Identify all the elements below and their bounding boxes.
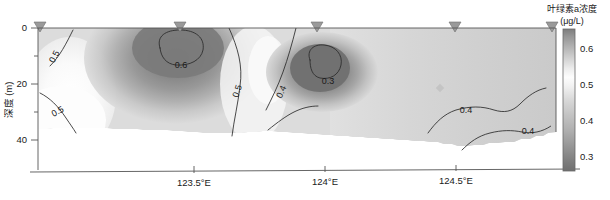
contour-label-0.6: 0.6 [175,60,188,70]
colorbar-tick-label-0.5: 0.5 [580,79,593,90]
figure-canvas: 0.5 0.5 0.6 0.5 0.4 0.3 0.4 0.4 [0,0,610,200]
colorbar-gradient[interactable] [563,29,575,171]
contour-label-0.3: 0.3 [322,76,335,86]
x-tick-label-124: 124°E [312,176,338,187]
y-axis-title: 深度 (m) [3,82,14,119]
contour-label-0.4-right-upper: 0.4 [460,105,473,115]
x-tick-label-124.5: 124.5°E [439,175,473,186]
axis-bottom [30,169,580,172]
colorbar-title-line1: 叶绿素a浓度 [547,3,597,14]
y-tick-label-0: 0 [22,22,27,33]
field-low-core-inner [290,44,350,92]
y-tick-label-40: 40 [16,134,27,145]
field-white-band-left-lower [18,86,106,154]
colorbar-tick-label-0.3: 0.3 [580,151,593,162]
y-tick-label-20: 20 [16,78,27,89]
contour-label-0.4-right-lower: 0.4 [522,126,535,136]
colorbar-tick-label-0.6: 0.6 [580,43,593,54]
contour-section-figure: 0.5 0.5 0.6 0.5 0.4 0.3 0.4 0.4 [0,0,610,200]
x-tick-label-123.5: 123.5°E [177,177,211,188]
colorbar-title-line2: (μg/L) [560,16,584,26]
contour-field [18,0,556,170]
colorbar-tick-label-0.4: 0.4 [580,115,593,126]
